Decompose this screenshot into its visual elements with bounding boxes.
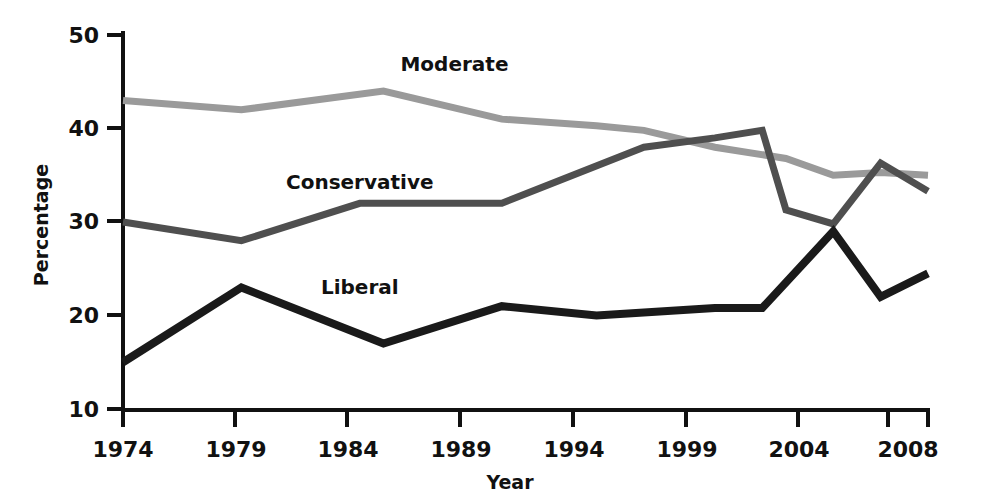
x-tick-label-1979: 1979	[205, 437, 266, 462]
x-tick-label-2008: 2008	[877, 437, 938, 462]
series-line-liberal	[123, 231, 928, 362]
x-axis-title: Year	[485, 471, 534, 493]
y-tick-label-20: 20	[68, 303, 99, 328]
x-tick-label-1974: 1974	[92, 437, 153, 462]
series-label-liberal: Liberal	[321, 275, 399, 299]
series-label-conservative: Conservative	[286, 170, 434, 194]
y-tick-label-40: 40	[68, 116, 99, 141]
x-tick-label-1994: 1994	[543, 437, 604, 462]
x-tick-label-2004: 2004	[768, 437, 829, 462]
y-tick-label-30: 30	[68, 209, 99, 234]
x-tick-label-1999: 1999	[656, 437, 717, 462]
y-tick-marks	[107, 35, 123, 409]
y-tick-label-10: 10	[68, 397, 99, 422]
y-tick-labels: 50 40 30 20 10	[68, 23, 99, 422]
y-tick-label-50: 50	[68, 23, 99, 48]
series-line-moderate	[123, 91, 928, 175]
series-line-conservative	[123, 130, 928, 240]
y-axis-title: Percentage	[30, 164, 52, 286]
x-tick-label-1984: 1984	[317, 437, 378, 462]
x-tick-marks	[123, 410, 928, 427]
line-chart: 50 40 30 20 10 1974 1979 1984 1989 1994 …	[0, 0, 992, 498]
series-label-moderate: Moderate	[400, 52, 508, 76]
x-tick-label-1989: 1989	[430, 437, 491, 462]
x-tick-labels: 1974 1979 1984 1989 1994 1999 2004 2008	[92, 437, 938, 462]
chart-container: 50 40 30 20 10 1974 1979 1984 1989 1994 …	[0, 0, 992, 498]
